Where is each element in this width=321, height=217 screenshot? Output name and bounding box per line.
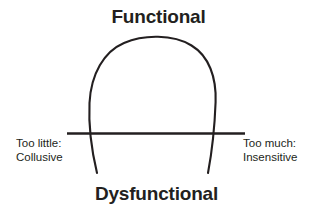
inverted-u-curve	[89, 37, 215, 173]
right-end-label: Too much: Insensitive	[243, 137, 297, 164]
right-end-label-line1: Too much:	[243, 137, 297, 151]
left-end-label-line1: Too little:	[16, 137, 63, 151]
left-end-label-line2: Collusive	[16, 151, 63, 165]
conflict-curve-diagram: Functional Too little: Collusive Too muc…	[0, 0, 321, 217]
right-end-label-line2: Insensitive	[243, 151, 297, 165]
left-end-label: Too little: Collusive	[16, 137, 63, 164]
bottom-title-dysfunctional: Dysfunctional	[0, 183, 317, 204]
